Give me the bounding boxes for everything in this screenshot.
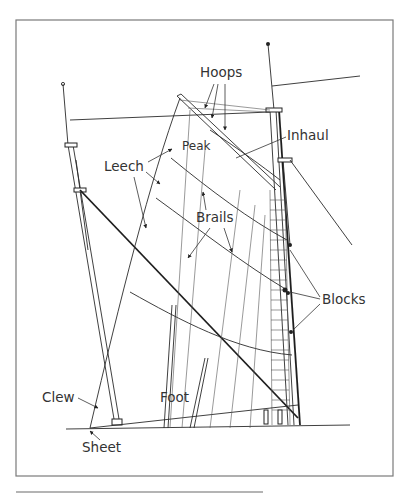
rig-diagram: Hoops Inhaul Peak Leech Brails Blocks Cl… xyxy=(0,0,411,494)
label-peak: Peak xyxy=(182,139,211,153)
label-leech: Leech xyxy=(104,158,144,174)
label-brails: Brails xyxy=(196,209,234,225)
figure-frame xyxy=(16,20,393,476)
oars xyxy=(164,305,208,428)
label-clew: Clew xyxy=(42,389,75,405)
brails xyxy=(130,130,292,355)
mizzen-mast xyxy=(61,82,270,425)
label-blocks: Blocks xyxy=(322,291,366,307)
label-sheet: Sheet xyxy=(82,439,121,455)
label-foot: Foot xyxy=(160,389,189,405)
main-mast xyxy=(266,42,360,425)
sail-leech xyxy=(90,98,180,428)
label-inhaul: Inhaul xyxy=(287,127,329,143)
label-hoops: Hoops xyxy=(200,64,242,80)
